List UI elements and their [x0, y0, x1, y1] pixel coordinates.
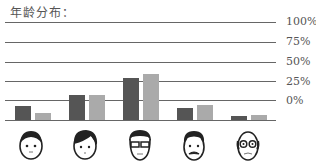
bar-young-adult-face-series-1	[69, 95, 85, 120]
gridline-100	[5, 22, 276, 23]
child-face-icon	[17, 127, 45, 163]
bar-child-face-series-1	[15, 106, 31, 120]
adult-glasses-face-icon	[126, 127, 154, 163]
tick-75: 75%	[286, 35, 310, 48]
chart-title: 年龄分布：	[10, 3, 75, 20]
bar-adult-glasses-face-series-1	[123, 78, 139, 120]
bar-child-face-series-2	[35, 113, 51, 120]
tick-0: 0%	[286, 94, 303, 107]
bar-middle-aged-mustache-face-series-2	[197, 105, 213, 120]
middle-aged-mustache-face-icon	[180, 127, 208, 163]
bar-young-adult-face-series-2	[89, 95, 105, 120]
gridline-25	[5, 81, 276, 82]
gridline-50	[5, 62, 276, 63]
tick-100: 100%	[286, 15, 316, 28]
tick-25: 25%	[286, 75, 310, 88]
baseline	[5, 120, 276, 121]
elderly-bald-glasses-face-icon	[234, 127, 262, 163]
bar-elderly-bald-glasses-face-series-1	[231, 116, 247, 120]
gridline-75	[5, 42, 276, 43]
bar-middle-aged-mustache-face-series-1	[177, 108, 193, 120]
tick-50: 50%	[286, 55, 310, 68]
gridline-0	[5, 100, 276, 101]
bar-adult-glasses-face-series-2	[143, 74, 159, 120]
young-adult-face-icon	[71, 127, 99, 163]
bar-elderly-bald-glasses-face-series-2	[251, 115, 267, 120]
